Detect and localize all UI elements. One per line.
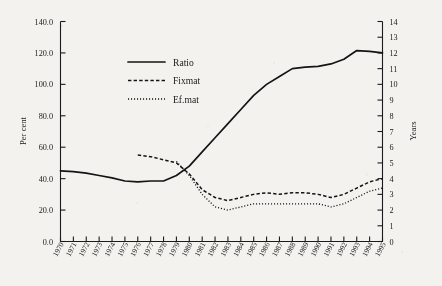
y-axis-right-tick-label: 3 [390, 190, 394, 199]
line-chart: 0.020.040.060.080.0100.0120.0140.0 01234… [0, 0, 442, 286]
x-axis-tick-label: 1992 [334, 240, 349, 258]
y-axis-right-tick-label: 7 [390, 128, 394, 137]
x-axis-tick-label: 1988 [283, 240, 298, 258]
x-axis-tick-label: 1970 [51, 240, 66, 258]
x-axis-tick-label: 1984 [231, 240, 246, 258]
x-axis-tick-label: 1976 [128, 240, 143, 258]
legend-label-efmat: Ef.mat [173, 94, 199, 105]
y-axis-right-tick-label: 11 [390, 65, 398, 74]
series-line-efmat [176, 161, 382, 210]
x-axis-tick-label: 1980 [180, 240, 195, 258]
y-axis-left-tick-label: 120.0 [35, 49, 53, 58]
y-axis-right-tick-label: 8 [390, 112, 394, 121]
y-axis-left-tick-label: 60.0 [39, 143, 53, 152]
y-axis-right-tick-label: 0 [390, 238, 394, 247]
y-axis-right-tick-label: 13 [390, 33, 398, 42]
x-axis-tick-label: 1993 [347, 240, 362, 258]
y-axis-right-tick-label: 10 [390, 80, 398, 89]
y-axis-left-tick-label: 0.0 [43, 238, 53, 247]
x-axis-tick-label: 1982 [205, 240, 220, 258]
y-axis-right-tick-label: 9 [390, 96, 394, 105]
x-axis-tick-label: 1987 [270, 240, 285, 258]
legend-label-fixmat: Fixmat [173, 75, 201, 86]
y-axis-left-tick-label: 140.0 [35, 18, 53, 27]
y-axis-left-tick-label: 100.0 [35, 80, 53, 89]
chart-legend: RatioFixmatEf.mat [128, 57, 201, 105]
x-axis-tick-label: 1979 [167, 240, 182, 258]
chart-figure: 0.020.040.060.080.0100.0120.0140.0 01234… [0, 0, 442, 286]
x-axis-tick-label: 1978 [154, 240, 169, 258]
x-axis: 1970197119721973197419751976197719781979… [51, 237, 388, 258]
series-layer [61, 51, 383, 211]
x-axis-tick-label: 1985 [244, 240, 259, 258]
x-axis-tick-label: 1973 [89, 240, 104, 258]
x-axis-tick-label: 1991 [321, 240, 336, 258]
x-axis-tick-label: 1974 [102, 240, 117, 258]
x-axis-tick-label: 1977 [141, 240, 156, 258]
x-axis-tick-label: 1983 [218, 240, 233, 258]
x-axis-tick-label: 1995 [373, 240, 388, 258]
y-axis-right-tick-label: 4 [390, 175, 394, 184]
x-axis-tick-label: 1981 [193, 240, 208, 258]
y-axis-right-tick-label: 5 [390, 159, 394, 168]
series-line-ratio [61, 51, 383, 182]
y-axis-left-tick-label: 40.0 [39, 175, 53, 184]
x-axis-tick-label: 1986 [257, 240, 272, 258]
y-axis-left-tick-label: 80.0 [39, 112, 53, 121]
y-axis-right-tick-label: 14 [390, 18, 398, 27]
x-axis-tick-label: 1989 [296, 240, 311, 258]
x-axis-tick-label: 1972 [77, 240, 92, 258]
legend-label-ratio: Ratio [173, 57, 194, 68]
y-axis-left-title: Per cent [18, 116, 28, 145]
y-axis-left-tick-label: 20.0 [39, 206, 53, 215]
y-axis-right-tick-label: 2 [390, 206, 394, 215]
y-axis-right-tick-label: 12 [390, 49, 398, 58]
x-axis-tick-label: 1990 [308, 240, 323, 258]
x-axis-tick-label: 1994 [360, 240, 375, 258]
series-line-fixmat [138, 155, 383, 201]
x-axis-tick-label: 1971 [64, 240, 79, 258]
x-axis-tick-label: 1975 [115, 240, 130, 258]
y-axis-right-tick-label: 6 [390, 143, 394, 152]
y-axis-right-tick-label: 1 [390, 222, 394, 231]
y-axis-right-title: Years [408, 121, 418, 141]
